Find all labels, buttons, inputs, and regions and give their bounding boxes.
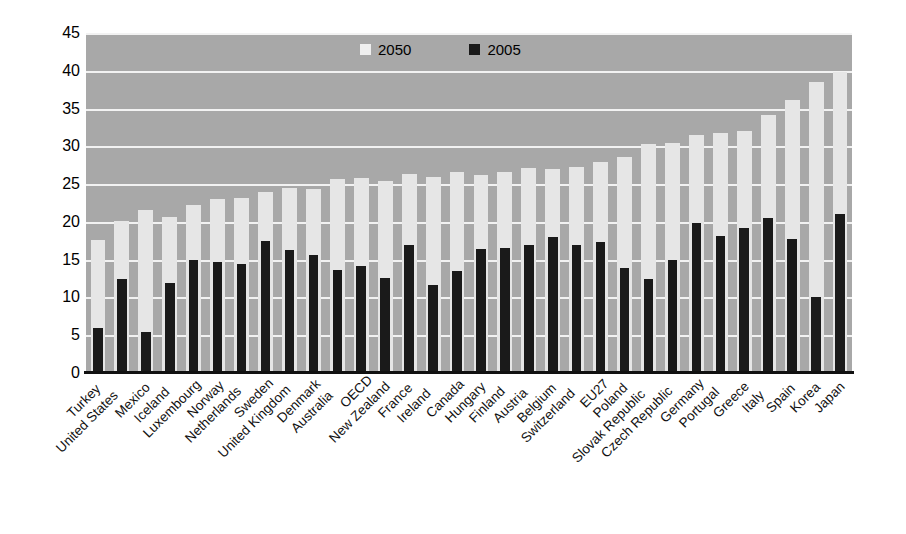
bar-group — [589, 33, 613, 373]
bar-group — [325, 33, 349, 373]
y-axis-tick: 5 — [40, 326, 80, 344]
bar-group — [254, 33, 278, 373]
chart-legend: 2050 2005 — [360, 41, 521, 58]
bar-group — [756, 33, 780, 373]
bar-group — [684, 33, 708, 373]
bar-group — [828, 33, 852, 373]
bar-series-container — [86, 33, 852, 373]
bar-group — [182, 33, 206, 373]
legend-item-2005: 2005 — [469, 41, 520, 58]
bar-2005 — [476, 249, 486, 373]
bar-group — [469, 33, 493, 373]
bar-2005 — [452, 271, 462, 373]
bar-group — [565, 33, 589, 373]
bar-group — [421, 33, 445, 373]
y-axis-tick: 25 — [40, 175, 80, 193]
bar-2005 — [716, 236, 726, 373]
bar-group — [780, 33, 804, 373]
bar-group — [804, 33, 828, 373]
bar-group — [445, 33, 469, 373]
bar-2005 — [763, 218, 773, 373]
bar-2005 — [285, 250, 295, 373]
bar-2005 — [572, 245, 582, 373]
legend-item-2050: 2050 — [360, 41, 411, 58]
bar-group — [708, 33, 732, 373]
bar-group — [637, 33, 661, 373]
bar-2005 — [380, 278, 390, 373]
bar-2005 — [644, 279, 654, 373]
bar-group — [541, 33, 565, 373]
bar-2005 — [141, 332, 151, 373]
bar-2005 — [739, 228, 749, 373]
bar-2005 — [596, 242, 606, 373]
bar-group — [301, 33, 325, 373]
bar-2005 — [189, 260, 199, 373]
light-swatch-icon — [360, 44, 371, 55]
bar-2005 — [261, 241, 271, 373]
bar-group — [134, 33, 158, 373]
x-axis-labels: TurkeyUnited StatesMexicoIcelandLuxembou… — [0, 376, 906, 534]
bar-group — [517, 33, 541, 373]
bar-2005 — [620, 268, 630, 373]
bar-group — [86, 33, 110, 373]
bar-2005 — [117, 279, 127, 373]
y-axis-tick: 15 — [40, 251, 80, 269]
bar-2005 — [524, 245, 534, 373]
y-axis-tick: 20 — [40, 213, 80, 231]
bar-group — [373, 33, 397, 373]
bar-2005 — [548, 237, 558, 373]
y-axis-tick: 30 — [40, 137, 80, 155]
legend-label-2005: 2005 — [487, 41, 520, 58]
bar-group — [349, 33, 373, 373]
dark-swatch-icon — [469, 44, 480, 55]
bar-2005 — [787, 239, 797, 373]
bar-2005 — [93, 328, 103, 373]
bar-group — [493, 33, 517, 373]
bar-group — [278, 33, 302, 373]
y-axis-tick: 45 — [40, 24, 80, 42]
bar-2005 — [309, 255, 319, 373]
bar-group — [661, 33, 685, 373]
bar-2005 — [356, 266, 366, 373]
bar-2005 — [237, 264, 247, 373]
plot-area — [86, 33, 852, 373]
bar-group — [397, 33, 421, 373]
legend-label-2050: 2050 — [378, 41, 411, 58]
bar-2005 — [165, 283, 175, 373]
y-axis-tick: 40 — [40, 62, 80, 80]
bar-group — [206, 33, 230, 373]
bar-2005 — [333, 270, 343, 373]
y-axis-tick: 10 — [40, 288, 80, 306]
x-axis-baseline — [84, 371, 854, 374]
y-axis-tick: 35 — [40, 100, 80, 118]
bar-2005 — [835, 214, 845, 373]
bar-2005 — [500, 248, 510, 373]
bar-2005 — [404, 245, 414, 373]
bar-chart: 051015202530354045 2050 2005 TurkeyUnite… — [0, 0, 906, 534]
y-axis: 051015202530354045 — [32, 33, 80, 373]
bar-group — [613, 33, 637, 373]
bar-2005 — [428, 285, 438, 373]
bar-group — [158, 33, 182, 373]
bar-group — [110, 33, 134, 373]
bar-group — [732, 33, 756, 373]
bar-2005 — [668, 260, 678, 373]
bar-2005 — [213, 262, 223, 373]
bar-2005 — [811, 297, 821, 373]
bar-2005 — [692, 223, 702, 373]
bar-group — [230, 33, 254, 373]
